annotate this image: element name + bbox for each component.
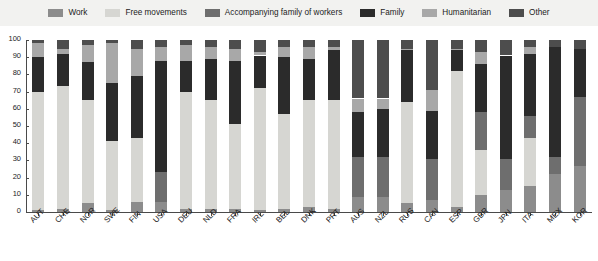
bar-segment-nzl-accompanying-family-of-workers xyxy=(377,157,389,197)
stacked-bar-swe[interactable] xyxy=(106,40,118,212)
stacked-bar-nld[interactable] xyxy=(205,40,217,212)
stacked-bar-can[interactable] xyxy=(426,40,438,212)
y-tick-label: 80 xyxy=(13,69,21,77)
bar-slot-che[interactable] xyxy=(51,40,76,212)
legend-item-other[interactable]: Other xyxy=(509,9,549,17)
bar-segment-swe-free-movements xyxy=(106,141,118,210)
bar-slot-prt[interactable] xyxy=(321,40,346,212)
bar-slot-bel[interactable] xyxy=(272,40,297,212)
bar-segment-nzl-family xyxy=(377,109,389,157)
y-tick-label: 50 xyxy=(13,121,21,129)
stacked-bar-esp[interactable] xyxy=(451,40,463,212)
bar-slot-esp[interactable] xyxy=(444,40,469,212)
stacked-bar-usa[interactable] xyxy=(155,40,167,212)
bar-slot-gbr[interactable] xyxy=(469,40,494,212)
bar-segment-gbr-family xyxy=(475,64,487,112)
bar-slot-jpn[interactable] xyxy=(494,40,519,212)
bar-slot-aut[interactable] xyxy=(26,40,51,212)
legend-swatch-free_movements xyxy=(105,9,120,17)
bar-slot-mex[interactable] xyxy=(543,40,568,212)
stacked-bar-rus[interactable] xyxy=(401,40,413,212)
stacked-bar-mex[interactable] xyxy=(549,40,561,212)
stacked-bar-fra[interactable] xyxy=(229,40,241,212)
bar-slot-deu[interactable] xyxy=(174,40,199,212)
bar-segment-irl-free-movements xyxy=(254,88,266,210)
bar-segment-ita-humanitarian xyxy=(524,47,536,54)
legend-swatch-family xyxy=(360,9,375,17)
bar-segment-ita-family xyxy=(524,54,536,116)
y-tick-label: 90 xyxy=(13,52,21,60)
bar-segment-swe-family xyxy=(106,83,118,141)
bar-segment-gbr-other xyxy=(475,40,487,52)
bar-slot-dnk[interactable] xyxy=(297,40,322,212)
bar-slot-irl[interactable] xyxy=(247,40,272,212)
bar-segment-irl-family xyxy=(254,56,266,89)
legend-item-free_movements[interactable]: Free movements xyxy=(105,9,186,17)
legend-label-work: Work xyxy=(68,9,87,17)
stacked-bar-aut[interactable] xyxy=(32,40,44,212)
bar-segment-usa-other xyxy=(155,40,167,47)
stacked-bar-kor[interactable] xyxy=(574,40,586,212)
bar-segment-rus-humanitarian xyxy=(401,49,413,51)
bar-segment-bel-free-movements xyxy=(278,114,290,209)
stacked-bar-dnk[interactable] xyxy=(303,40,315,212)
bar-segment-aut-other xyxy=(32,40,44,43)
bar-slot-nor[interactable] xyxy=(75,40,100,212)
stacked-bar-aus[interactable] xyxy=(352,40,364,212)
bar-segment-irl-humanitarian xyxy=(254,52,266,55)
bar-segment-kor-other xyxy=(574,40,586,49)
chart-legend: WorkFree movementsAccompanying family of… xyxy=(0,0,598,26)
bar-segment-deu-family xyxy=(180,61,192,92)
stacked-bar-nzl[interactable] xyxy=(377,40,389,212)
stacked-bar-gbr[interactable] xyxy=(475,40,487,212)
bar-segment-nld-free-movements xyxy=(205,100,217,208)
bar-slot-fra[interactable] xyxy=(223,40,248,212)
bar-slot-can[interactable] xyxy=(420,40,445,212)
stacked-bar-deu[interactable] xyxy=(180,40,192,212)
bar-segment-esp-free-movements xyxy=(451,71,463,207)
bar-slot-kor[interactable] xyxy=(567,40,592,212)
stacked-bar-jpn[interactable] xyxy=(500,40,512,212)
legend-item-humanitarian[interactable]: Humanitarian xyxy=(422,9,491,17)
bar-segment-kor-accompanying-family-of-workers xyxy=(574,97,586,166)
bar-segment-dnk-humanitarian xyxy=(303,47,315,59)
y-tick-label: 0 xyxy=(17,207,21,215)
stacked-bar-ita[interactable] xyxy=(524,40,536,212)
bar-segment-prt-other xyxy=(328,40,340,47)
legend-item-work[interactable]: Work xyxy=(48,9,87,17)
bar-segment-can-family xyxy=(426,111,438,159)
bar-slot-rus[interactable] xyxy=(395,40,420,212)
bar-segment-che-other xyxy=(57,40,69,49)
bar-slot-nld[interactable] xyxy=(198,40,223,212)
bar-slot-usa[interactable] xyxy=(149,40,174,212)
bar-slot-nzl[interactable] xyxy=(371,40,396,212)
bar-segment-prt-free-movements xyxy=(328,100,340,208)
bar-segment-gbr-free-movements xyxy=(475,150,487,195)
stacked-bar-che[interactable] xyxy=(57,40,69,212)
legend-label-family: Family xyxy=(380,9,404,17)
bar-segment-prt-family xyxy=(328,50,340,100)
legend-item-family[interactable]: Family xyxy=(360,9,404,17)
bar-slot-ita[interactable] xyxy=(518,40,543,212)
bar-segment-fin-other xyxy=(131,40,143,49)
bar-segment-bel-humanitarian xyxy=(278,47,290,57)
x-axis-label-fin: FIN xyxy=(128,210,143,225)
bar-segment-esp-family xyxy=(451,50,463,71)
legend-label-other: Other xyxy=(529,9,549,17)
stacked-bar-prt[interactable] xyxy=(328,40,340,212)
bar-segment-gbr-humanitarian xyxy=(475,52,487,64)
stacked-bar-nor[interactable] xyxy=(82,40,94,212)
bar-segment-usa-family xyxy=(155,61,167,173)
legend-label-humanitarian: Humanitarian xyxy=(442,9,491,17)
bar-slot-aus[interactable] xyxy=(346,40,371,212)
bar-slot-fin[interactable] xyxy=(124,40,149,212)
bar-segment-can-accompanying-family-of-workers xyxy=(426,159,438,200)
stacked-bar-irl[interactable] xyxy=(254,40,266,212)
bar-segment-nld-family xyxy=(205,59,217,100)
y-tick-label: 60 xyxy=(13,104,21,112)
legend-item-accompanying_family[interactable]: Accompanying family of workers xyxy=(205,9,342,17)
bar-slot-swe[interactable] xyxy=(100,40,125,212)
stacked-bar-bel[interactable] xyxy=(278,40,290,212)
stacked-bar-fin[interactable] xyxy=(131,40,143,212)
bar-segment-dnk-family xyxy=(303,59,315,100)
